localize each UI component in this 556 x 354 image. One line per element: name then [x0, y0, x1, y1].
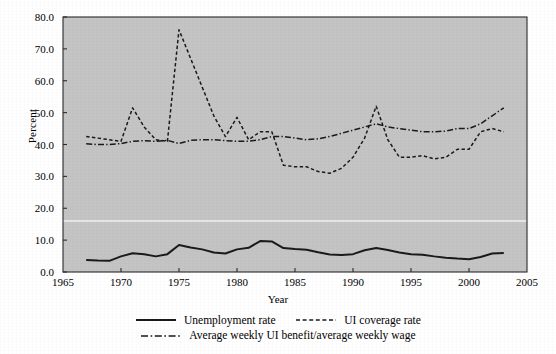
legend: Unemployment rate UI coverage rate Avera… [0, 312, 556, 343]
plot-background [63, 17, 527, 272]
legend-label-benefit: Average weekly UI benefit/average weekly… [189, 330, 415, 342]
legend-key-solid-icon [135, 313, 177, 327]
legend-label-coverage: UI coverage rate [344, 314, 421, 326]
legend-row-2: Average weekly UI benefit/average weekly… [0, 327, 556, 342]
legend-key-dashdot-icon [140, 329, 182, 343]
chart-figure: Percent 0.010.020.030.040.050.060.070.08… [0, 0, 556, 354]
legend-label-unemployment: Unemployment rate [184, 314, 276, 326]
legend-key-dashed-icon [295, 313, 337, 327]
x-axis-title: Year [0, 293, 556, 305]
legend-row-1: Unemployment rate UI coverage rate [0, 312, 556, 327]
